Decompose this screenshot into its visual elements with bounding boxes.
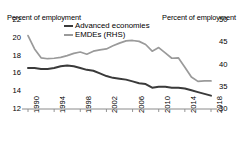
series-lines bbox=[28, 36, 211, 96]
axis-lines bbox=[22, 109, 217, 112]
chart-figure: Percent of employment Percent of employm… bbox=[0, 0, 238, 148]
series-line-advanced-economies bbox=[28, 65, 211, 95]
plot-area bbox=[0, 0, 238, 148]
series-line-emdes-rhs bbox=[28, 36, 211, 82]
